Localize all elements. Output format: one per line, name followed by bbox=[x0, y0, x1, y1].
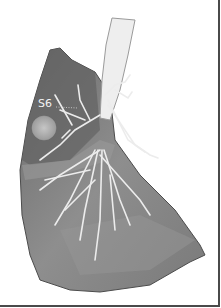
image-frame bbox=[0, 0, 220, 307]
